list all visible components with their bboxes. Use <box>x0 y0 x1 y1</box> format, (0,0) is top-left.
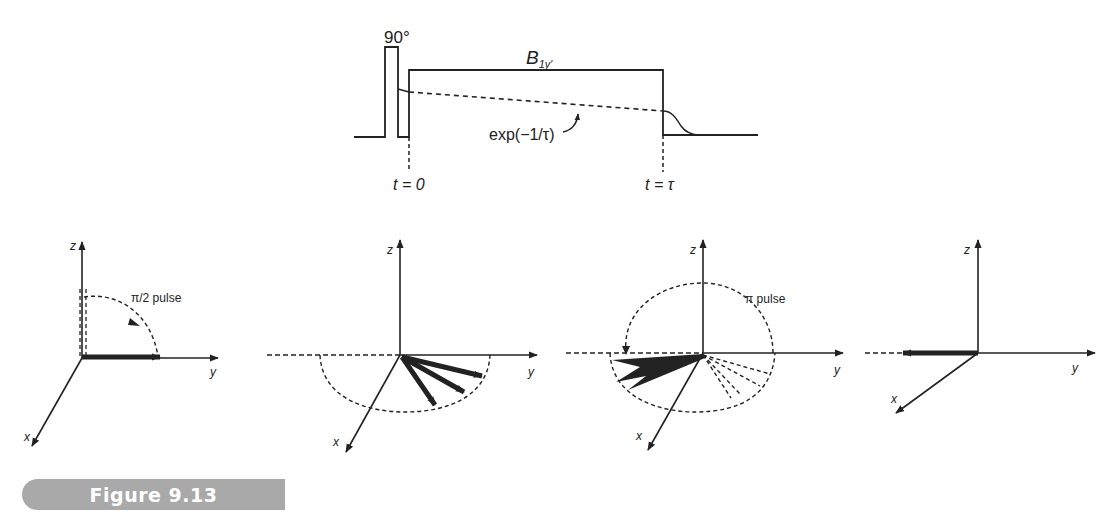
vector-panel-2: z y x <box>267 240 537 452</box>
y-label: y <box>209 365 217 379</box>
vector-panel-1: z y x π/2 pulse <box>23 239 218 446</box>
refocused-vectors <box>612 354 705 390</box>
decay-label: exp(−1/τ) <box>489 126 554 143</box>
fid-decay-curve <box>663 111 700 135</box>
vector-panel-4: z y x <box>865 240 1095 413</box>
y-label: y <box>1071 361 1079 375</box>
dashed-vector-2 <box>703 355 760 386</box>
time-end-label: t = τ <box>645 176 675 193</box>
x-label: x <box>890 392 898 406</box>
y-label: y <box>833 363 841 377</box>
x-label: x <box>635 429 643 443</box>
dashed-vector-3 <box>703 355 740 394</box>
dashed-vector-1 <box>703 355 770 374</box>
fid-start <box>398 89 409 92</box>
pulse-annotation: π/2 pulse <box>131 291 182 305</box>
z-label: z <box>689 243 696 257</box>
figure-caption-bar: Figure 9.13 <box>22 479 285 510</box>
x-axis <box>896 353 978 413</box>
z-label: z <box>69 239 76 253</box>
pi-half-arc <box>84 296 158 356</box>
decay-arrow-icon <box>563 114 578 132</box>
x-label: x <box>23 430 31 444</box>
x-axis <box>32 358 82 446</box>
pulse-label: 90° <box>384 28 410 47</box>
y-label: y <box>527 365 535 379</box>
x-axis <box>346 355 400 452</box>
figure-canvas: 90° B1y′ exp(−1/τ) t = 0 t = τ z y x π/2… <box>0 0 1120 519</box>
z-label: z <box>386 243 393 257</box>
figure-caption: Figure 9.13 <box>90 484 218 506</box>
arc-direction-icon <box>128 318 140 326</box>
x-label: x <box>332 435 340 449</box>
pulse-annotation: π pulse <box>745 292 786 306</box>
time-start-label: t = 0 <box>393 176 425 193</box>
pulse-waveform <box>354 47 758 137</box>
pulse-sequence <box>354 47 758 172</box>
vector-panel-3: z y x π pulse <box>566 240 843 450</box>
decay-dashed-line <box>409 92 663 111</box>
field-label: B1y′ <box>526 47 553 70</box>
z-label: z <box>963 243 970 257</box>
